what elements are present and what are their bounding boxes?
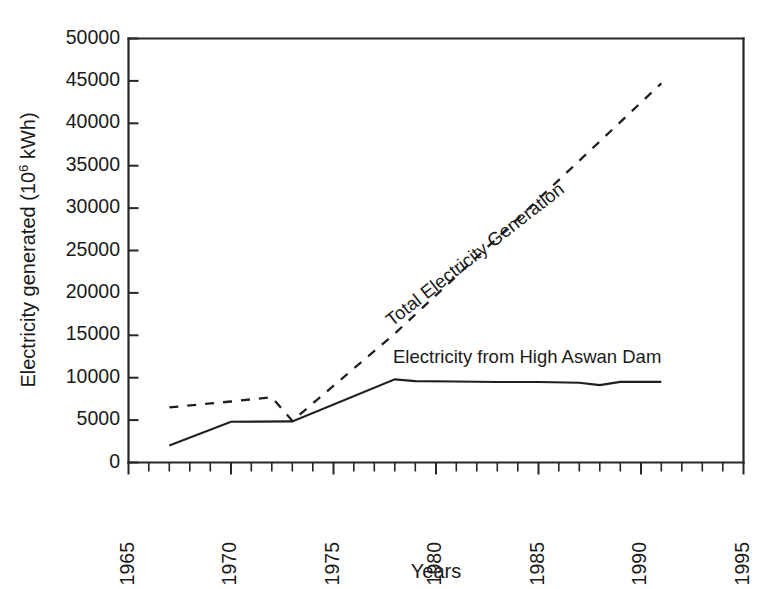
ytick-label: 40000 bbox=[66, 110, 120, 132]
xtick-label: 1985 bbox=[526, 542, 548, 586]
ytick-label: 0 bbox=[109, 450, 120, 472]
y-axis-tick-labels: 0 5000 10000 15000 20000 25000 30000 350… bbox=[66, 26, 120, 472]
xtick-label: 1975 bbox=[321, 542, 343, 586]
series-electricity-from-high-aswan-dam bbox=[169, 379, 661, 445]
ytick-label: 25000 bbox=[66, 238, 120, 260]
y-axis-title: Electricity generated (106 kWh) bbox=[16, 112, 39, 387]
x-axis-title: Years bbox=[411, 560, 461, 582]
y-axis-title-prefix: Electricity generated (10 bbox=[17, 172, 39, 388]
ytick-label: 10000 bbox=[66, 365, 120, 387]
axes-frame bbox=[129, 39, 744, 463]
xtick-label: 1965 bbox=[116, 542, 138, 586]
xtick-label: 1970 bbox=[218, 542, 240, 586]
y-axis-title-suffix: kWh) bbox=[17, 112, 39, 164]
ytick-label: 5000 bbox=[77, 407, 121, 429]
y-axis-ticks bbox=[129, 39, 139, 463]
ytick-label: 35000 bbox=[66, 153, 120, 175]
xtick-label: 1995 bbox=[731, 542, 753, 586]
ytick-label: 15000 bbox=[66, 322, 120, 344]
ytick-label: 30000 bbox=[66, 195, 120, 217]
series-total-electricity-generation bbox=[169, 83, 661, 421]
ytick-label: 50000 bbox=[66, 26, 120, 48]
annotation-total-electricity-generation: Total Electricity Generation bbox=[382, 178, 568, 330]
ytick-label: 20000 bbox=[66, 280, 120, 302]
y-axis-title-superscript: 6 bbox=[16, 165, 31, 172]
x-axis-major-ticks bbox=[129, 463, 744, 475]
ytick-label: 45000 bbox=[66, 68, 120, 90]
xtick-label: 1990 bbox=[628, 542, 650, 586]
annotation-electricity-from-high-aswan-dam: Electricity from High Aswan Dam bbox=[393, 346, 661, 367]
line-chart: 0 5000 10000 15000 20000 25000 30000 350… bbox=[0, 0, 774, 589]
chart-figure: 0 5000 10000 15000 20000 25000 30000 350… bbox=[0, 0, 774, 589]
